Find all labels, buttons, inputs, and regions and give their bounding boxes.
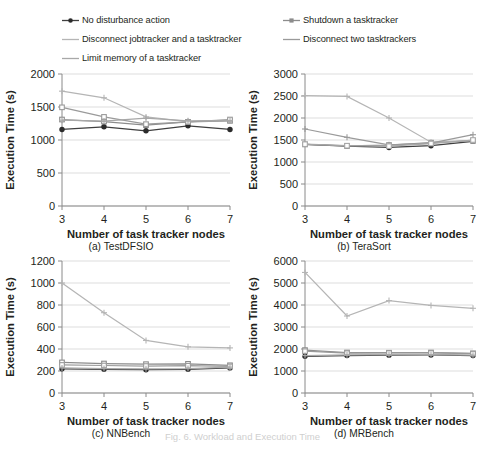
svg-text:Execution Time (s): Execution Time (s) [247,90,259,190]
svg-text:4: 4 [344,213,350,225]
svg-text:5000: 5000 [274,277,298,289]
svg-text:500: 500 [280,178,298,190]
svg-text:800: 800 [37,299,55,311]
svg-text:7: 7 [470,213,476,225]
legend-item-label: Disconnect two tasktrackers [303,34,416,45]
legend-item-label: Shutdown a tasktracker [303,15,398,26]
svg-text:Number of task tracker nodes: Number of task tracker nodes [67,415,225,427]
svg-text:5: 5 [386,400,392,412]
plot-area-c: 02004006008001000120034567Number of task… [0,253,242,439]
svg-text:200: 200 [37,365,55,377]
svg-text:0: 0 [49,387,55,399]
svg-text:Number of task tracker nodes: Number of task tracker nodes [310,415,468,427]
svg-text:500: 500 [37,167,55,179]
svg-text:3000: 3000 [274,68,298,80]
legend-item[interactable]: Disconnect jobtracker and a tasktracker [62,31,241,48]
svg-text:2000: 2000 [274,112,298,124]
chart-grid: 050010001500200034567Number of task trac… [0,66,485,441]
svg-text:6: 6 [428,400,434,412]
svg-text:4: 4 [344,400,350,412]
filled-circle-marker [62,15,79,26]
plot-area-b: 05001000150020002500300034567Number of t… [243,66,485,252]
svg-text:600: 600 [37,321,55,333]
svg-text:7: 7 [227,400,233,412]
svg-text:6: 6 [185,400,191,412]
svg-text:Execution Time (s): Execution Time (s) [4,277,16,377]
legend-item[interactable]: No disturbance action [62,12,241,29]
legend-item-label: Limit memory of a tasktracker [82,53,201,64]
svg-text:3: 3 [59,400,65,412]
svg-text:7: 7 [227,213,233,225]
plot-area-a: 050010001500200034567Number of task trac… [0,66,242,252]
legend-item-label: No disturbance action [82,15,170,26]
svg-text:3: 3 [59,213,65,225]
svg-text:5: 5 [143,213,149,225]
figure-caption: Fig. 6. Workload and Execution Time [0,431,485,443]
legend-item[interactable]: Limit memory of a tasktracker [62,50,241,67]
line-marker [62,53,79,64]
legend-item-label: Disconnect jobtracker and a tasktracker [82,34,241,45]
svg-text:3000: 3000 [274,321,298,333]
svg-text:7: 7 [470,400,476,412]
chart-panel-mrbench: 010002000300040005000600034567Number of … [243,253,485,439]
svg-text:6000: 6000 [274,255,298,267]
svg-text:1000: 1000 [274,365,298,377]
svg-text:2000: 2000 [31,68,55,80]
svg-text:1000: 1000 [274,156,298,168]
svg-text:Execution Time (s): Execution Time (s) [4,90,16,190]
svg-text:0: 0 [292,387,298,399]
svg-text:1200: 1200 [31,255,55,267]
svg-text:1000: 1000 [31,277,55,289]
svg-text:5: 5 [143,400,149,412]
legend-item[interactable]: Disconnect two tasktrackers [283,31,416,48]
svg-text:4: 4 [101,213,107,225]
chart-panel-terasort: 05001000150020002500300034567Number of t… [243,66,485,252]
svg-text:400: 400 [37,343,55,355]
plot-area-d: 010002000300040005000600034567Number of … [243,253,485,439]
svg-text:1500: 1500 [31,101,55,113]
svg-text:3: 3 [302,400,308,412]
legend-item[interactable]: Shutdown a tasktracker [283,12,416,29]
legend-column-right: Shutdown a tasktrackerDisconnect two tas… [283,12,416,50]
svg-text:Number of task tracker nodes: Number of task tracker nodes [310,228,468,240]
svg-text:0: 0 [49,200,55,212]
svg-text:6: 6 [428,213,434,225]
svg-text:1000: 1000 [31,134,55,146]
svg-text:Number of task tracker nodes: Number of task tracker nodes [67,228,225,240]
svg-text:3: 3 [302,213,308,225]
legend-column-left: No disturbance actionDisconnect jobtrack… [62,12,241,69]
svg-text:4: 4 [101,400,107,412]
svg-text:0: 0 [292,200,298,212]
svg-text:6: 6 [185,213,191,225]
chart-panel-testdfsio: 050010001500200034567Number of task trac… [0,66,242,252]
panel-caption-a: (a) TestDFSIO [0,241,242,252]
chart-legend: No disturbance actionDisconnect jobtrack… [0,0,485,68]
svg-text:1500: 1500 [274,134,298,146]
line-marker [62,34,79,45]
panel-caption-b: (b) TeraSort [243,241,485,252]
svg-text:2500: 2500 [274,90,298,102]
svg-text:4000: 4000 [274,299,298,311]
svg-text:Execution Time (s): Execution Time (s) [247,277,259,377]
line-marker [283,34,300,45]
svg-text:2000: 2000 [274,343,298,355]
small-square-marker [283,15,300,26]
svg-text:5: 5 [386,213,392,225]
chart-panel-nnbench: 02004006008001000120034567Number of task… [0,253,242,439]
